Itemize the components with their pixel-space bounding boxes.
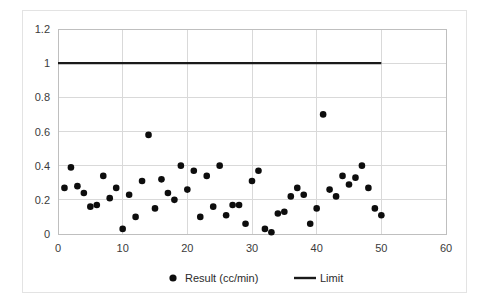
data-point bbox=[249, 178, 256, 185]
data-point bbox=[100, 173, 107, 180]
data-point bbox=[236, 202, 243, 209]
data-point bbox=[203, 173, 210, 180]
data-point bbox=[255, 167, 262, 174]
x-tick-label: 50 bbox=[375, 242, 387, 254]
data-point bbox=[61, 185, 68, 192]
legend-label: Result (cc/min) bbox=[185, 272, 258, 284]
x-tick-label: 60 bbox=[440, 242, 452, 254]
x-tick-label: 30 bbox=[246, 242, 258, 254]
data-point bbox=[119, 226, 126, 233]
data-point bbox=[281, 208, 288, 215]
data-point bbox=[229, 202, 236, 209]
data-point bbox=[94, 202, 101, 209]
data-point bbox=[178, 162, 185, 169]
data-point bbox=[339, 173, 346, 180]
data-point bbox=[359, 162, 366, 169]
data-point bbox=[352, 174, 359, 181]
y-axis-tick-labels: 00.20.40.60.811.2 bbox=[35, 23, 50, 240]
data-point bbox=[171, 197, 178, 204]
data-point bbox=[126, 191, 133, 198]
data-point bbox=[372, 205, 379, 212]
data-point bbox=[288, 193, 295, 200]
data-point bbox=[262, 226, 269, 233]
data-point bbox=[333, 193, 340, 200]
data-point bbox=[74, 183, 81, 190]
data-point bbox=[87, 203, 94, 210]
data-point bbox=[152, 205, 159, 212]
data-point bbox=[365, 185, 372, 192]
y-tick-label: 0.4 bbox=[35, 160, 50, 172]
data-point bbox=[139, 178, 146, 185]
data-point bbox=[132, 214, 139, 221]
x-tick-label: 20 bbox=[181, 242, 193, 254]
data-point bbox=[184, 186, 191, 193]
x-tick-label: 40 bbox=[311, 242, 323, 254]
data-point bbox=[165, 190, 172, 197]
legend-marker-result bbox=[169, 274, 176, 281]
chart-legend: Result (cc/min)Limit bbox=[169, 272, 343, 284]
data-point bbox=[113, 185, 120, 192]
x-tick-label: 10 bbox=[117, 242, 129, 254]
data-point bbox=[294, 185, 301, 192]
result-scatter-series bbox=[61, 111, 384, 235]
data-point bbox=[216, 162, 223, 169]
data-point bbox=[313, 205, 320, 212]
legend-label: Limit bbox=[320, 272, 343, 284]
y-tick-label: 0 bbox=[44, 228, 50, 240]
data-point bbox=[145, 132, 152, 139]
y-tick-label: 1.2 bbox=[35, 23, 50, 35]
scatter-chart: 00.20.40.60.811.2 0102030405060 Result (… bbox=[23, 11, 468, 294]
data-point bbox=[275, 210, 282, 217]
data-point bbox=[158, 176, 165, 183]
data-point bbox=[300, 191, 307, 198]
data-point bbox=[68, 164, 75, 171]
chart-card: 00.20.40.60.811.2 0102030405060 Result (… bbox=[22, 10, 467, 293]
chart-canvas: 00.20.40.60.811.2 0102030405060 Result (… bbox=[23, 11, 468, 294]
x-tick-label: 0 bbox=[55, 242, 61, 254]
y-tick-label: 0.6 bbox=[35, 126, 50, 138]
data-point bbox=[106, 195, 113, 202]
data-point bbox=[320, 111, 327, 118]
data-point bbox=[191, 167, 198, 174]
data-point bbox=[197, 214, 204, 221]
data-point bbox=[378, 212, 385, 219]
data-point bbox=[307, 220, 314, 227]
x-axis-tick-labels: 0102030405060 bbox=[55, 242, 452, 254]
y-tick-label: 0.8 bbox=[35, 91, 50, 103]
gridlines bbox=[58, 29, 446, 234]
y-tick-label: 0.2 bbox=[35, 194, 50, 206]
data-point bbox=[326, 186, 333, 193]
data-point bbox=[268, 229, 275, 236]
data-point bbox=[210, 203, 217, 210]
data-point bbox=[346, 181, 353, 188]
data-point bbox=[242, 220, 249, 227]
y-tick-label: 1 bbox=[44, 57, 50, 69]
data-point bbox=[223, 212, 230, 219]
data-point bbox=[81, 190, 88, 197]
